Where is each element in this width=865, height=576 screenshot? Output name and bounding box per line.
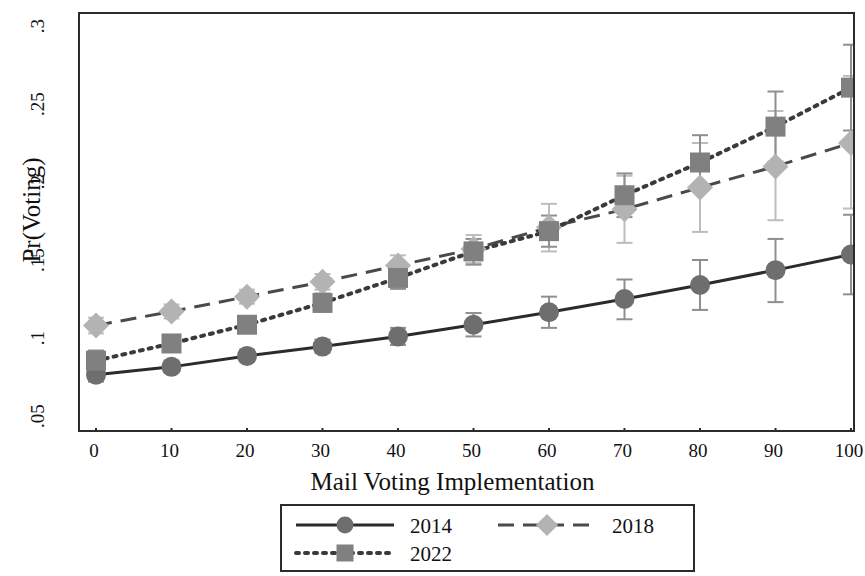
data-point [690,275,710,295]
x-axis-tick-label: 100 [819,440,865,462]
legend-label-2018: 2018 [612,514,654,539]
data-point [615,289,635,309]
x-axis-tick-label: 10 [140,440,200,462]
x-axis-title: Mail Voting Implementation [0,468,865,496]
data-point [464,315,484,335]
data-point [539,221,559,241]
legend-marker [536,514,558,536]
data-point [687,174,713,200]
chart-legend: 2014 2018 2022 [280,504,695,572]
legend-marker [337,545,354,562]
data-point [464,241,484,261]
data-point [388,326,408,346]
data-point [162,357,182,377]
x-axis-tick-label: 90 [744,440,804,462]
data-point [841,78,853,98]
data-point [838,130,853,156]
y-axis-tick-label: .15 [27,230,49,290]
data-point [237,346,257,366]
data-point [234,284,260,310]
x-axis-tick-label: 70 [593,440,653,462]
y-axis-tick-label: .05 [27,386,49,446]
data-point [766,260,786,280]
x-axis-tick-label: 30 [291,440,351,462]
legend-marker [337,517,354,534]
x-axis-tick-label: 20 [215,440,275,462]
legend-label-2022: 2022 [410,542,452,567]
y-axis-tick-label: .25 [27,74,49,134]
plot-area [78,12,855,432]
data-point [539,302,559,322]
error-bars-2018 [88,76,853,333]
x-axis-tick-label: 80 [668,440,728,462]
data-point [162,333,182,353]
x-axis-tick-label: 60 [517,440,577,462]
data-point [83,313,109,339]
data-point [310,269,336,295]
data-point [763,153,789,179]
x-axis-tick-label: 50 [442,440,502,462]
data-point [766,117,786,137]
data-point [313,337,333,357]
y-axis-tick-label: .3 [27,0,49,56]
figure-canvas: Pr(Voting) .05.1.15.2.25.3 0102030405060… [0,0,865,576]
data-point [159,298,185,324]
data-point [313,293,333,313]
x-axis-tick-label: 0 [64,440,124,462]
data-point [237,315,257,335]
data-point [615,185,635,205]
data-point [388,268,408,288]
x-axis-tick-label: 40 [366,440,426,462]
y-axis-tick-label: .2 [27,152,49,212]
data-point [841,245,853,265]
plot-svg [80,14,853,430]
data-point [690,153,710,173]
legend-label-2014: 2014 [410,514,452,539]
data-point [86,351,106,371]
x-axis-title-text: Mail Voting Implementation [311,468,595,496]
y-axis-tick-label: .1 [27,308,49,368]
